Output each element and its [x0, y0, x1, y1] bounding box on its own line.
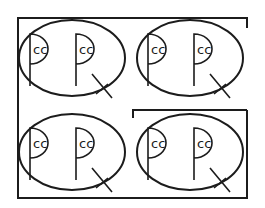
group-ellipse — [137, 20, 243, 96]
diagram-canvas: cc cc cc cc cc cc — [0, 0, 265, 208]
glyph-label: cc — [33, 136, 47, 151]
p-flag-glyph-tailed: cc — [194, 34, 230, 98]
glyph-label: cc — [197, 42, 211, 57]
p-flag-glyph: cc — [148, 34, 166, 86]
group-top-left: cc cc — [19, 20, 125, 98]
glyph-label: cc — [151, 136, 165, 151]
glyph-label: cc — [197, 136, 211, 151]
group-ellipse — [19, 20, 125, 96]
outer-frame-bottom — [18, 110, 247, 198]
glyph-label: cc — [79, 136, 93, 151]
group-bottom-left: cc cc — [19, 114, 125, 192]
group-top-right: cc cc — [137, 20, 243, 98]
p-flag-glyph-tailed: cc — [76, 34, 112, 98]
group-bottom-right: cc cc — [137, 114, 243, 192]
glyph-label: cc — [151, 42, 165, 57]
p-flag-glyph: cc — [30, 128, 48, 180]
group-ellipse — [19, 114, 125, 190]
glyph-label: cc — [33, 42, 47, 57]
glyph-label: cc — [79, 42, 93, 57]
p-flag-glyph: cc — [148, 128, 166, 180]
p-flag-glyph-tailed: cc — [76, 128, 112, 192]
group-ellipse — [137, 114, 243, 190]
p-flag-glyph: cc — [30, 34, 48, 86]
p-flag-glyph-tailed: cc — [194, 128, 230, 192]
